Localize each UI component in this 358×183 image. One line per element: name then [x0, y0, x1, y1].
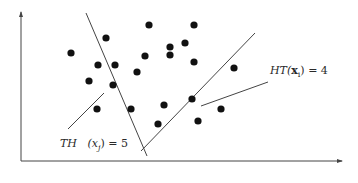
label-ht-prefix: HT( [270, 64, 291, 77]
data-point [166, 51, 173, 58]
label-th-prefix: TH [60, 137, 77, 150]
data-point [67, 49, 74, 56]
label-th-arg: (x [87, 137, 98, 150]
data-point [166, 43, 173, 50]
data-point [109, 81, 116, 88]
data-point [133, 68, 140, 75]
data-point [190, 21, 197, 28]
data-point [230, 64, 237, 71]
data-points [67, 21, 237, 127]
label-ht: HT(xi) = 4 [270, 64, 328, 79]
data-point [111, 61, 118, 68]
partition-lines [68, 13, 268, 156]
label-th: TH (xj) = 5 [60, 137, 128, 152]
data-point [145, 21, 152, 28]
line-ht [141, 33, 255, 151]
data-point [141, 52, 148, 59]
diagram-canvas [0, 0, 358, 183]
label-th-rest: ) = 5 [100, 137, 128, 150]
data-point [85, 77, 92, 84]
data-point [102, 34, 109, 41]
data-point [181, 39, 188, 46]
data-point [127, 105, 134, 112]
data-point [160, 101, 167, 108]
data-point [188, 95, 195, 102]
data-point [217, 105, 224, 112]
label-ht-rest: ) = 4 [300, 64, 328, 77]
leader-ht [201, 82, 268, 106]
data-point [94, 61, 101, 68]
data-point [194, 117, 201, 124]
data-point [190, 58, 197, 65]
data-point [93, 105, 100, 112]
data-point [154, 120, 161, 127]
